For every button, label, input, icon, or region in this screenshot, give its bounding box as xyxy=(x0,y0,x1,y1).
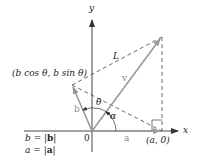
vector-v-label: v xyxy=(122,74,127,83)
b-point-label: (b cos θ, b sin θ) xyxy=(12,69,87,78)
legend-b-magnitude: b = |b| xyxy=(25,134,56,143)
vector-a-label: a xyxy=(124,134,129,143)
dashed-b-to-a xyxy=(72,85,162,131)
legend-a-magnitude: a = |a| xyxy=(25,146,56,155)
vector-v xyxy=(92,39,160,131)
a-point-label: (a, 0) xyxy=(146,136,170,145)
right-angle-marker xyxy=(152,120,162,131)
angle-alpha-label: α xyxy=(110,112,116,121)
segment-L-label: L xyxy=(113,52,119,61)
vector-b-label: b xyxy=(74,105,80,114)
y-axis-label: y xyxy=(89,4,94,13)
origin-label: 0 xyxy=(84,134,90,143)
angle-theta-label: θ xyxy=(96,98,101,107)
x-axis-label: x xyxy=(183,126,188,135)
